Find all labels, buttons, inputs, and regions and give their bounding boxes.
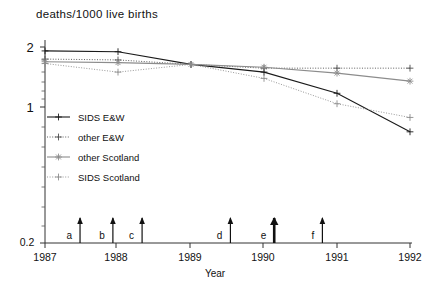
annotation-arrowhead-a [77,217,83,224]
series-line-2 [45,62,410,81]
legend-marker-1 [55,134,62,141]
legend-label-2: other Scotland [78,152,139,163]
y-axis-ticks [40,47,45,243]
y-tick-label-2: 2 [26,40,33,55]
annotation-label-a: a [66,230,72,241]
series-0-point-4 [334,90,341,97]
series-2-point-5 [407,78,414,85]
series-0-point-0 [42,48,49,55]
series-2-point-3 [261,64,268,71]
series-2-point-1 [115,59,122,66]
series-3-point-3 [261,75,268,82]
series-line-1 [45,59,410,68]
annotation-arrowhead-d [228,217,234,224]
legend-marker-2 [55,154,62,161]
chart-container: deaths/1000 live births 2 1 0.2 [0,0,430,300]
x-tick-label-1991: 1991 [325,251,349,263]
chart-title: deaths/1000 live births [36,8,158,20]
y-tick-label-02: 0.2 [20,236,35,248]
chart-legend: SIDS E&Wother E&Wother ScotlandSIDS Scot… [47,112,140,183]
series-3-point-5 [407,114,414,121]
x-tick-label-1992: 1992 [398,251,422,263]
x-tick-label-1988: 1988 [104,251,128,263]
annotation-arrows-layer: abcdef [66,217,325,243]
legend-label-1: other E&W [78,132,124,143]
series-line-3 [45,64,410,118]
x-tick-label-1987: 1987 [33,251,57,263]
x-tick-label-1990: 1990 [251,251,275,263]
series-3-point-4 [334,100,341,107]
series-0-point-1 [115,48,122,55]
x-tick-label-1989: 1989 [178,251,202,263]
series-2-point-4 [334,70,341,77]
series-1-point-5 [407,65,414,72]
series-0-point-5 [407,128,414,135]
series-3-point-1 [115,69,122,76]
annotation-label-f: f [312,230,315,241]
x-axis-title: Year [205,268,226,279]
annotation-label-d: d [217,230,223,241]
y-tick-label-1: 1 [26,100,33,115]
annotation-arrowhead-f [320,217,326,224]
annotation-arrowhead-e [270,217,278,225]
legend-label-3: SIDS Scotland [78,172,140,183]
annotation-label-b: b [99,230,105,241]
annotation-label-e: e [261,230,267,241]
legend-label-0: SIDS E&W [78,112,124,123]
chart-svg: deaths/1000 live births 2 1 0.2 [0,0,430,300]
annotation-arrowhead-b [110,217,116,224]
series-3-point-0 [42,60,49,67]
x-axis-ticks [45,243,410,248]
legend-marker-3 [55,174,62,181]
annotation-label-c: c [129,230,134,241]
annotation-arrowhead-c [139,217,145,224]
legend-marker-0 [55,114,62,121]
